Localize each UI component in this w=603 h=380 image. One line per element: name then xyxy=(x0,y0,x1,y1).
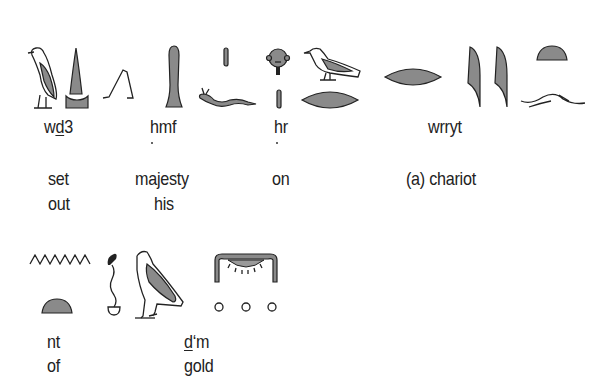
transliteration-wd3: wd3 xyxy=(44,116,73,138)
water-ripple-icon xyxy=(28,252,92,266)
gloss-majesty: majesty xyxy=(135,168,189,190)
gloss-set: set xyxy=(48,168,69,190)
transliteration-dm: d‘m xyxy=(184,331,209,353)
gloss-out: out xyxy=(48,193,70,215)
transliteration-hmf: hmf xyxy=(150,116,176,138)
translit-part: w xyxy=(44,116,55,137)
translit-part: d xyxy=(184,331,193,352)
cobra-rope-icon xyxy=(104,251,120,317)
bread-loaf-icon xyxy=(535,44,569,62)
reed-leaf-icon xyxy=(493,45,511,109)
three-grains-icon xyxy=(213,300,279,314)
walking-legs-icon xyxy=(101,68,135,102)
land-strip-icon xyxy=(519,93,587,109)
horned-viper-icon xyxy=(196,86,258,108)
diacritic-dot xyxy=(151,142,153,144)
bread-loaf-icon xyxy=(40,297,74,315)
transliteration-wrryt: wrryt xyxy=(428,116,462,138)
gloss-of: of xyxy=(47,355,60,377)
mouth-icon xyxy=(300,90,362,110)
transliteration-nt: nt xyxy=(47,331,60,353)
translit-part: 3 xyxy=(64,116,73,137)
face-icon xyxy=(267,48,289,80)
falcon-icon xyxy=(133,250,189,320)
gold-collar-icon xyxy=(212,252,280,284)
gloss-his: his xyxy=(154,193,174,215)
translit-part: ‘m xyxy=(193,331,210,352)
transliteration-hr: hr xyxy=(274,116,288,138)
bird-icon xyxy=(302,45,364,80)
gloss-on: on xyxy=(272,168,289,190)
reed-leaf-icon xyxy=(466,45,484,109)
loaf-on-stand-icon xyxy=(64,48,90,110)
diacritic-dot xyxy=(276,142,278,144)
gloss-gold: gold xyxy=(184,355,214,377)
stroke-icon xyxy=(276,89,282,109)
translit-part: d xyxy=(55,116,64,137)
gloss-chariot: (a) chariot xyxy=(406,168,476,190)
club-icon xyxy=(164,45,184,109)
mouth-icon xyxy=(383,67,445,87)
stroke-icon xyxy=(223,47,229,67)
